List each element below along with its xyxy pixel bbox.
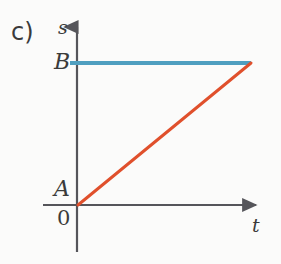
series-line-rising-from-a [78,63,251,205]
level-b-label: B [54,51,70,73]
t-axis-label: t [252,216,260,235]
part-label: c) [11,20,34,44]
s-axis-label: s [58,18,68,37]
graph-canvas [0,0,281,264]
graph-figure: c) s t B A 0 [0,0,281,264]
origin-label: 0 [57,208,70,229]
level-a-label: A [54,178,70,200]
